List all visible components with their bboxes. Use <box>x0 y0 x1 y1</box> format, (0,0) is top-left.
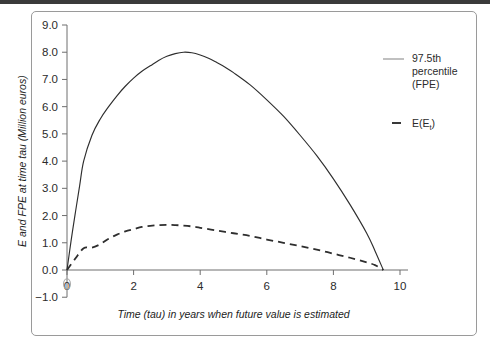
y-axis-title: E and FPE at time tau (Million euros) <box>16 75 28 247</box>
legend-label-base: E(E <box>412 117 430 129</box>
legend: 97.5thpercentile(FPE)E(Et) <box>383 52 458 132</box>
y-axis-tick-label: 2.0 <box>42 210 58 222</box>
y-axis-tick-label: 8.0 <box>42 46 58 58</box>
x-axis-tick-label: 4 <box>197 280 204 292</box>
axes-layer: −1.00.01.02.03.04.05.06.07.08.09.0024681… <box>35 19 408 303</box>
y-axis-tick-label: 0.0 <box>42 264 58 276</box>
x-axis-tick-label: 6 <box>264 280 270 292</box>
line-chart: −1.00.01.02.03.04.05.06.07.08.09.0024681… <box>0 0 490 348</box>
y-axis-tick-label: 5.0 <box>42 128 58 140</box>
legend-label-percentile: 97.5thpercentile(FPE) <box>412 52 458 90</box>
series-line-percentile <box>67 52 383 270</box>
x-axis-title: Time (tau) in years when future value is… <box>117 308 350 320</box>
legend-label-line: (FPE) <box>412 78 439 90</box>
series-layer <box>67 52 383 270</box>
y-axis-tick-label: 9.0 <box>42 19 58 31</box>
x-axis-tick-label: 10 <box>394 280 407 292</box>
chart-container: −1.00.01.02.03.04.05.06.07.08.09.0024681… <box>0 0 490 348</box>
legend-label-close: ) <box>432 117 436 129</box>
legend-label-expected: E(Et) <box>412 117 435 132</box>
y-axis-tick-label: −1.0 <box>35 291 58 303</box>
x-axis-tick-label: 0 <box>64 280 70 292</box>
y-axis-tick-label: 7.0 <box>42 73 58 85</box>
legend-label-line: 97.5th <box>412 52 441 64</box>
series-line-expected <box>67 225 383 270</box>
legend-label-line: percentile <box>412 65 458 77</box>
y-axis-tick-label: 6.0 <box>42 101 58 113</box>
y-axis-tick-label: 3.0 <box>42 182 58 194</box>
x-axis-tick-label: 8 <box>330 280 336 292</box>
y-axis-tick-label: 1.0 <box>42 237 58 249</box>
y-axis-tick-label: 4.0 <box>42 155 58 167</box>
x-axis-tick-label: 2 <box>130 280 136 292</box>
